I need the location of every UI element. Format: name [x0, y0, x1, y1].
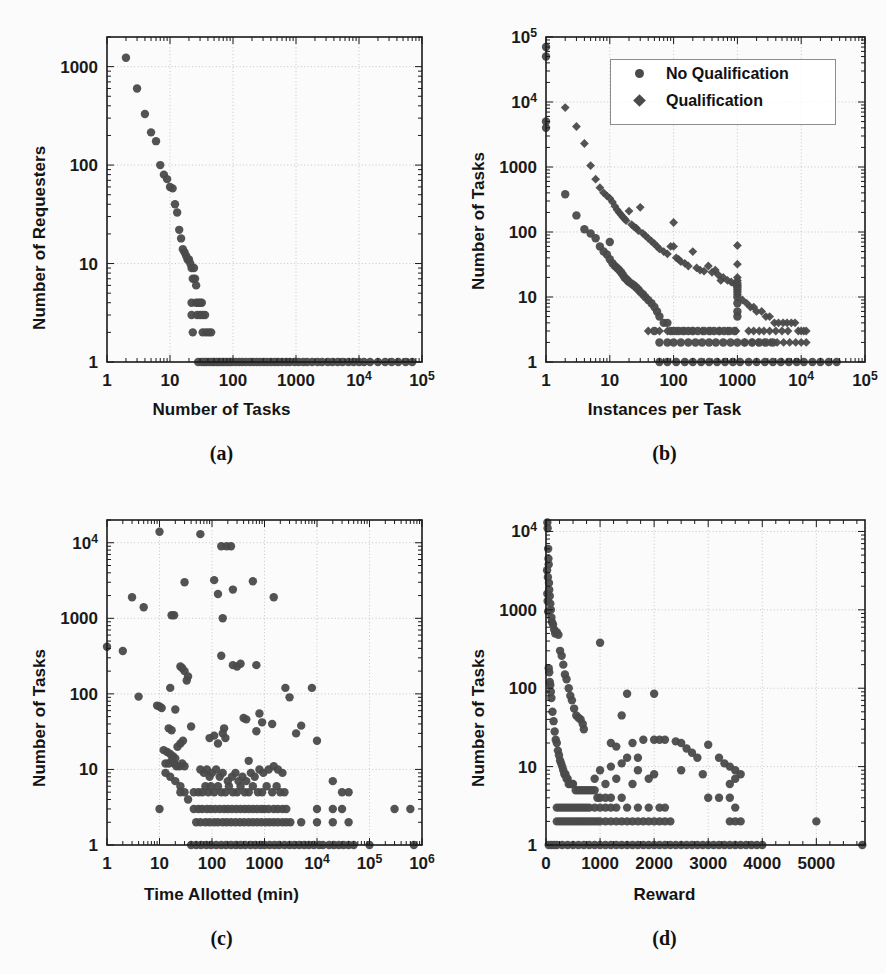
svg-text:1: 1: [89, 353, 98, 372]
panel-d-x-axis-title: Reward: [443, 885, 886, 905]
svg-text:100: 100: [70, 156, 98, 175]
panel-a-label: (a): [0, 442, 443, 465]
svg-text:105: 105: [409, 369, 435, 390]
svg-text:105: 105: [357, 852, 383, 873]
panel-a-y-axis-title: Number of Requesters: [30, 146, 50, 330]
legend-label-no-qualification: No Qualification: [666, 65, 789, 83]
svg-text:4000: 4000: [743, 854, 781, 873]
svg-text:10: 10: [600, 371, 619, 390]
svg-text:10: 10: [79, 255, 98, 274]
svg-text:100: 100: [70, 685, 98, 704]
svg-text:104: 104: [788, 369, 814, 390]
legend-entry-qualification: Qualification: [611, 87, 835, 114]
svg-text:0: 0: [541, 854, 550, 873]
circle-marker-icon: [622, 69, 656, 78]
svg-text:100: 100: [509, 223, 537, 242]
svg-text:104: 104: [511, 91, 537, 112]
svg-text:1: 1: [89, 836, 98, 855]
svg-text:100: 100: [219, 371, 247, 390]
figure-grid: 11010010001041051101001000 Number of Req…: [0, 0, 886, 974]
svg-text:105: 105: [852, 369, 878, 390]
svg-text:1000: 1000: [718, 371, 756, 390]
panel-c-y-axis-title: Number of Tasks: [30, 649, 50, 787]
svg-text:5000: 5000: [797, 854, 835, 873]
svg-text:1000: 1000: [246, 854, 284, 873]
panel-b: 11010010001041051101001000104105 Number …: [443, 0, 886, 487]
panel-d-y-axis-title: Number of Tasks: [469, 649, 489, 787]
svg-text:1000: 1000: [60, 609, 98, 628]
svg-text:1: 1: [102, 854, 111, 873]
svg-text:1: 1: [528, 836, 537, 855]
panel-c-x-axis-title: Time Allotted (min): [0, 885, 443, 905]
svg-text:10: 10: [518, 288, 537, 307]
svg-text:1000: 1000: [60, 58, 98, 77]
svg-text:104: 104: [346, 369, 372, 390]
panel-c: 11010010001041051061101001000104 Number …: [0, 487, 443, 974]
panel-b-y-axis-title: Number of Tasks: [469, 152, 489, 290]
legend-entry-no-qualification: No Qualification: [611, 60, 835, 87]
svg-text:104: 104: [511, 520, 537, 541]
legend-label-qualification: Qualification: [666, 92, 763, 110]
panel-d: 0100020003000400050001101001000104 Numbe…: [443, 487, 886, 974]
diamond-marker-icon: [622, 96, 656, 105]
svg-text:104: 104: [304, 852, 330, 873]
svg-text:100: 100: [198, 854, 226, 873]
svg-text:10: 10: [150, 854, 169, 873]
svg-text:1000: 1000: [499, 601, 537, 620]
svg-text:1000: 1000: [499, 158, 537, 177]
svg-text:100: 100: [509, 679, 537, 698]
svg-text:3000: 3000: [689, 854, 727, 873]
svg-text:105: 105: [511, 26, 537, 47]
svg-text:104: 104: [72, 532, 98, 553]
svg-text:1000: 1000: [581, 854, 619, 873]
panel-b-legend: No Qualification Qualification: [610, 59, 836, 125]
panel-d-label: (d): [443, 927, 886, 950]
svg-text:10: 10: [518, 758, 537, 777]
svg-text:1000: 1000: [277, 371, 315, 390]
svg-text:1: 1: [541, 371, 550, 390]
svg-text:10: 10: [161, 371, 180, 390]
panel-a: 11010010001041051101001000 Number of Req…: [0, 0, 443, 487]
svg-text:10: 10: [79, 760, 98, 779]
svg-text:106: 106: [409, 852, 435, 873]
panel-b-label: (b): [443, 442, 886, 465]
panel-a-x-axis-title: Number of Tasks: [0, 400, 443, 420]
svg-text:2000: 2000: [635, 854, 673, 873]
svg-text:1: 1: [528, 353, 537, 372]
svg-text:1: 1: [102, 371, 111, 390]
panel-b-x-axis-title: Instances per Task: [443, 400, 886, 420]
svg-text:100: 100: [659, 371, 687, 390]
panel-c-label: (c): [0, 927, 443, 950]
